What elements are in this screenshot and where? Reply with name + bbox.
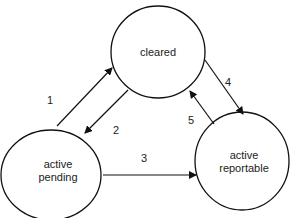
transition-4: 4: [205, 60, 243, 114]
transition-label: 2: [113, 124, 119, 136]
state-diagram: cleared active pending active reportable…: [0, 0, 294, 218]
state-cleared: cleared: [111, 6, 205, 98]
transition-1: 1: [47, 68, 112, 126]
state-label: cleared: [140, 46, 176, 58]
transition-label: 3: [141, 152, 147, 164]
transition-label: 1: [47, 94, 53, 106]
state-label: reportable: [219, 162, 269, 174]
state-label: active: [44, 158, 73, 170]
transition-label: 4: [225, 76, 231, 88]
state-label: active: [230, 149, 259, 161]
transition-3: 3: [103, 152, 196, 175]
transition-label: 5: [188, 114, 194, 126]
transition-5: 5: [188, 91, 214, 126]
state-active-pending: active pending: [1, 130, 101, 218]
state-active-reportable: active reportable: [195, 112, 289, 210]
transition-2: 2: [85, 90, 128, 136]
state-label: pending: [38, 171, 77, 183]
